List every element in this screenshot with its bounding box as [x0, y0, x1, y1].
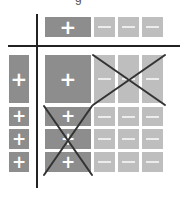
cross-out-marks — [0, 0, 187, 198]
cross-upper-right-icon — [93, 55, 165, 105]
cross-lower-left-icon — [44, 106, 92, 175]
